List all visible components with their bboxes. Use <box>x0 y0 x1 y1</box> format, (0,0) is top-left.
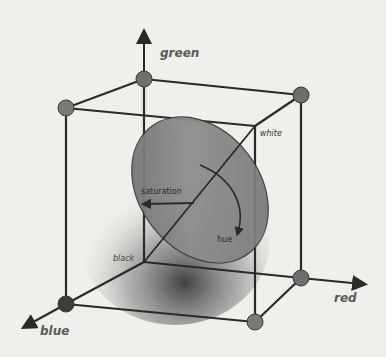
black-corner-label: black <box>113 255 134 263</box>
saturation-label: saturation <box>141 188 182 196</box>
hue-label: hue <box>217 236 232 244</box>
vertex-cyan <box>58 100 74 116</box>
vertex-magenta <box>247 314 263 330</box>
vertex-green <box>136 71 152 87</box>
vertex-blue <box>58 296 74 312</box>
rgb-cube-diagram: green red blue white black saturation hu… <box>0 0 386 357</box>
red-axis-arrow <box>301 278 362 284</box>
red-axis-label: red <box>334 292 357 304</box>
saturation-arrow <box>146 203 194 204</box>
blue-axis-label: blue <box>40 325 69 337</box>
green-axis-label: green <box>160 47 199 59</box>
vertex-yellow <box>293 87 309 103</box>
vertex-red <box>293 270 309 286</box>
white-corner-label: white <box>260 130 282 138</box>
